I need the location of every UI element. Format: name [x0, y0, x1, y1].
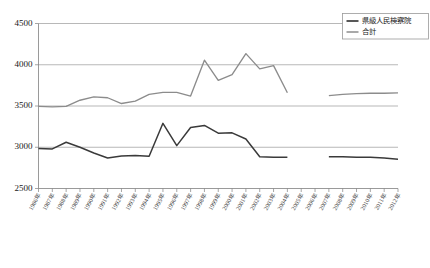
x-axis-tick-label: 2003年: [262, 192, 278, 212]
x-axis-tick-label: 2005年: [289, 192, 305, 212]
chart-legend: 県級人民検察院合計: [343, 14, 429, 40]
x-axis-tick-label: 2007年: [317, 192, 333, 212]
x-axis-tick-label: 2006年: [303, 192, 319, 212]
x-axis-tick-label: 2002年: [248, 192, 264, 212]
y-axis-tick-label: 4000: [15, 59, 34, 69]
y-axis-tick-label: 3000: [15, 141, 34, 151]
x-axis-tick-label: 1990年: [82, 192, 98, 212]
x-axis-tick-label: 2010年: [359, 192, 375, 212]
x-axis-tick-label: 1999年: [206, 192, 222, 212]
x-axis-tick-label: 2001年: [234, 192, 250, 212]
line-chart: 25003000350040004500 1986年1987年1988年1989…: [0, 0, 430, 268]
x-axis-tick-label: 2012年: [386, 192, 402, 212]
x-axis-tick-label: 1998年: [193, 192, 209, 212]
series-line-total: [39, 54, 288, 107]
x-axis-tick-label: 1992年: [110, 192, 126, 212]
legend-label[interactable]: 県級人民検察院: [362, 16, 412, 25]
x-axis-tick-label: 2008年: [331, 192, 347, 212]
y-axis-ticks-group: [35, 24, 39, 189]
legend-label[interactable]: 合計: [362, 27, 377, 36]
x-axis-labels-group: 1986年1987年1988年1989年1990年1991年1992年1993年…: [27, 192, 403, 212]
x-axis-tick-label: 1989年: [68, 192, 84, 212]
chart-container: 25003000350040004500 1986年1987年1988年1989…: [0, 0, 430, 268]
x-axis-tick-label: 1995年: [151, 192, 167, 212]
x-axis-tick-label: 2004年: [276, 192, 292, 212]
x-axis-tick-label: 1994年: [137, 192, 153, 212]
y-axis-tick-label: 2500: [15, 183, 34, 193]
series-layer: [39, 54, 399, 160]
x-axis-ticks-group: [39, 189, 399, 193]
x-axis-tick-label: 1997年: [179, 192, 195, 212]
series-line-total: [329, 93, 398, 96]
y-axis-tick-label: 3500: [15, 100, 34, 110]
series-line-county: [329, 157, 398, 159]
x-axis-tick-label: 2000年: [220, 192, 236, 212]
x-axis-tick-label: 1991年: [96, 192, 112, 212]
x-axis-tick-label: 1988年: [54, 192, 70, 212]
gridlines-group: [39, 24, 399, 148]
x-axis-tick-label: 2009年: [345, 192, 361, 212]
series-line-county: [39, 123, 288, 158]
y-axis-labels-group: 25003000350040004500: [15, 18, 34, 193]
x-axis-tick-label: 1987年: [41, 192, 57, 212]
y-axis-tick-label: 4500: [15, 18, 34, 28]
x-axis-tick-label: 1986年: [27, 192, 43, 212]
x-axis-tick-label: 1993年: [123, 192, 139, 212]
x-axis-tick-label: 1996年: [165, 192, 181, 212]
